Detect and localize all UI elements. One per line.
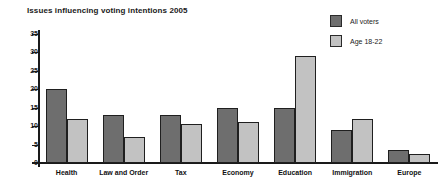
bar	[67, 119, 88, 163]
plot-area	[38, 34, 438, 163]
y-axis-tick-label: 25	[12, 67, 38, 74]
legend-item-all-voters: All voters	[330, 13, 440, 29]
bar-group	[324, 34, 381, 163]
bar	[274, 108, 295, 163]
bar	[124, 137, 145, 163]
y-axis-tick-label: 5	[12, 141, 38, 148]
legend-label-all-voters: All voters	[350, 18, 379, 25]
bar-group	[152, 34, 209, 163]
bar-group	[267, 34, 324, 163]
y-axis-tick-label: 10	[12, 122, 38, 129]
legend-swatch-all-voters	[330, 15, 342, 27]
bar	[409, 154, 430, 163]
y-axis-tick-label: 20	[12, 85, 38, 92]
bar-chart: Issues influencing voting intentions 200…	[0, 0, 446, 189]
bar	[352, 119, 373, 163]
bar-group	[209, 34, 266, 163]
y-axis-tick-label: 30	[12, 48, 38, 55]
chart-title: Issues influencing voting intentions 200…	[27, 6, 188, 15]
bar-group	[95, 34, 152, 163]
bar-group	[381, 34, 438, 163]
bar	[181, 124, 202, 163]
y-axis-tick-label: 0	[12, 159, 38, 166]
bar	[160, 115, 181, 163]
bar	[388, 150, 409, 163]
bar	[103, 115, 124, 163]
bar	[331, 130, 352, 163]
x-axis-label: Tax	[152, 168, 209, 177]
x-axis-label: Law and Order	[95, 168, 152, 177]
x-axis-label: Europe	[381, 168, 438, 177]
x-axis-label: Education	[267, 168, 324, 177]
bar	[46, 89, 67, 163]
bar-group	[38, 34, 95, 163]
x-axis-label: Health	[38, 168, 95, 177]
bar	[217, 108, 238, 163]
y-axis-tick-label: 35	[12, 30, 38, 37]
x-axis-label: Economy	[209, 168, 266, 177]
bar	[295, 56, 316, 163]
y-axis-tick-label: 15	[12, 104, 38, 111]
bar	[238, 122, 259, 163]
x-axis-label: Immigration	[324, 168, 381, 177]
